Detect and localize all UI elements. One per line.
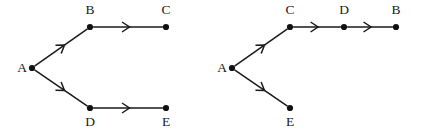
node-dot[interactable] (29, 65, 35, 71)
node-label-d: D (85, 114, 95, 129)
node-a[interactable]: A (17, 60, 35, 75)
edge-d-to-b (347, 22, 393, 32)
edge-line (35, 29, 88, 66)
node-dot[interactable] (341, 24, 347, 30)
node-label-b: B (391, 2, 400, 17)
node-label-e: E (286, 114, 294, 129)
node-dot[interactable] (229, 65, 235, 71)
node-e[interactable]: E (286, 105, 294, 129)
right-graph: ACDBE (217, 2, 400, 129)
node-label-b: B (85, 2, 94, 17)
graph-figure: ABCDEACDBE (0, 0, 424, 133)
node-dot[interactable] (163, 105, 169, 111)
node-label-a: A (217, 60, 227, 75)
node-dot[interactable] (163, 24, 169, 30)
node-label-d: D (339, 2, 349, 17)
graph-canvas: ABCDEACDBE (0, 0, 424, 133)
node-label-e: E (162, 114, 170, 129)
node-d[interactable]: D (339, 2, 349, 30)
node-c[interactable]: C (161, 2, 170, 30)
node-dot[interactable] (287, 105, 293, 111)
edge-a-to-b (35, 29, 88, 66)
node-label-c: C (161, 2, 170, 17)
node-a[interactable]: A (217, 60, 235, 75)
edge-a-to-e (235, 70, 288, 106)
edge-a-to-c (235, 29, 288, 66)
left-graph: ABCDE (17, 2, 170, 129)
node-e[interactable]: E (162, 105, 170, 129)
node-label-c: C (285, 2, 294, 17)
node-dot[interactable] (87, 24, 93, 30)
node-label-a: A (17, 60, 27, 75)
node-b[interactable]: B (391, 2, 400, 30)
edge-d-to-e (93, 103, 163, 113)
edge-a-to-d (35, 70, 88, 106)
edge-line (235, 29, 288, 66)
node-dot[interactable] (287, 24, 293, 30)
edge-line (235, 70, 288, 106)
edge-b-to-c (93, 22, 163, 32)
edge-line (35, 70, 88, 106)
node-dot[interactable] (87, 105, 93, 111)
node-b[interactable]: B (85, 2, 94, 30)
edge-c-to-d (293, 22, 341, 32)
node-c[interactable]: C (285, 2, 294, 30)
node-dot[interactable] (393, 24, 399, 30)
